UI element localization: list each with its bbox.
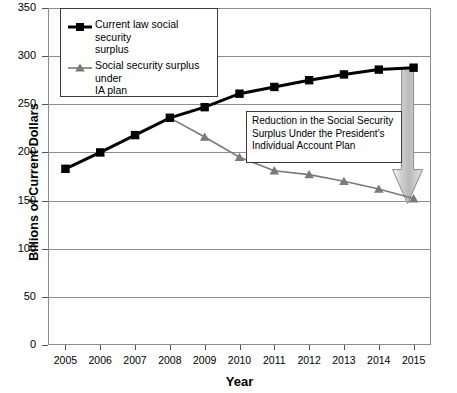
- data-point-current-law: [131, 131, 139, 139]
- legend-marker-triangle-icon: [67, 60, 93, 72]
- legend-label-current-law: Current law social securitysurplus: [93, 18, 215, 56]
- legend-item-current-law: Current law social securitysurplus: [67, 18, 215, 56]
- legend-label-ia-plan: Social security surplus underIA plan: [93, 59, 215, 97]
- data-point-current-law: [96, 148, 104, 156]
- data-point-current-law: [340, 70, 348, 78]
- callout-line-2: Surplus Under the President's: [252, 128, 397, 141]
- legend-marker-square-icon: [67, 19, 93, 31]
- x-axis-title: Year: [48, 374, 431, 389]
- legend-item-ia-plan: Social security surplus underIA plan: [67, 59, 215, 97]
- data-point-current-law: [166, 114, 174, 122]
- legend: Current law social securitysurplus Socia…: [60, 8, 218, 97]
- callout-line-3: Individual Account Plan: [252, 140, 397, 153]
- data-point-current-law: [409, 63, 417, 71]
- data-point-current-law: [235, 89, 243, 97]
- data-point-current-law: [375, 65, 383, 73]
- chart-container: Billions of Current Dollars 350300250200…: [0, 0, 457, 393]
- data-point-current-law: [305, 76, 313, 84]
- callout-line-1: Reduction in the Social Security: [252, 115, 397, 128]
- data-point-current-law: [61, 165, 69, 173]
- data-point-ia-plan: [200, 132, 210, 140]
- reduction-callout-box: Reduction in the Social Security Surplus…: [246, 111, 402, 163]
- data-point-ia-plan: [235, 153, 245, 161]
- data-point-current-law: [270, 83, 278, 91]
- data-point-current-law: [200, 103, 208, 111]
